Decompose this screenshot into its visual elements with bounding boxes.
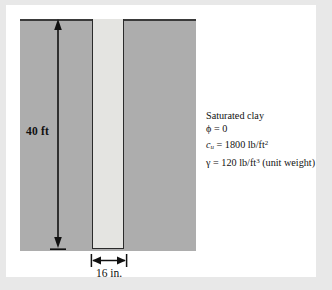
unit-weight-value: 120 lb/ft xyxy=(221,157,256,168)
page-sheet: 40 ft 16 in. Saturated clay ϕ = 0 xyxy=(6,5,316,277)
unit-weight-line: γ = 120 lb/ft3 (unit weight) xyxy=(206,154,324,169)
cohesion-line: cu = 1800 lb/ft2 xyxy=(206,136,324,154)
width-dimension-arrow xyxy=(90,254,128,268)
cohesion-subscript: u xyxy=(211,143,214,150)
friction-angle-line: ϕ = 0 xyxy=(206,122,324,135)
unit-weight-note: (unit weight) xyxy=(262,157,315,168)
figure-root: 40 ft 16 in. Saturated clay ϕ = 0 xyxy=(0,0,332,290)
friction-angle-value: 0 xyxy=(222,123,227,134)
depth-dimension-arrow xyxy=(49,19,67,251)
unit-weight-exponent: 3 xyxy=(256,157,259,164)
unit-weight-symbol: γ xyxy=(206,157,211,168)
friction-angle-equals: = xyxy=(214,123,220,134)
soil-type-label: Saturated clay xyxy=(206,109,324,122)
width-dimension-label: 16 in. xyxy=(84,267,134,279)
cohesion-value: 1800 lb/ft xyxy=(225,139,265,150)
cohesion-exponent: 2 xyxy=(265,139,268,146)
soil-properties-annotation: Saturated clay ϕ = 0 cu = 1800 lb/ft2 γ … xyxy=(206,109,324,169)
unit-weight-equals: = xyxy=(213,157,219,168)
friction-angle-symbol: ϕ xyxy=(206,123,211,134)
pile-column xyxy=(92,19,124,249)
cohesion-equals: = xyxy=(217,139,223,150)
depth-dimension-label: 40 ft xyxy=(24,125,51,137)
